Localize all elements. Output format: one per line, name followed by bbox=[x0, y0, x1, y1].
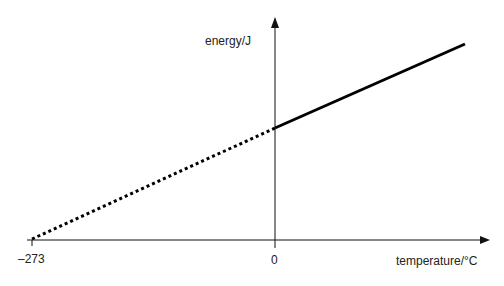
y-axis-label: energy/J bbox=[205, 34, 251, 48]
x-tick-zero: 0 bbox=[271, 253, 278, 267]
x-axis-label: temperature/°C bbox=[396, 254, 478, 268]
dotted-line bbox=[32, 128, 275, 239]
y-axis-arrow-icon bbox=[271, 17, 279, 28]
x-tick-neg273: –273 bbox=[18, 252, 45, 266]
chart-canvas bbox=[0, 0, 504, 286]
solid-line bbox=[275, 44, 465, 128]
x-axis-arrow-icon bbox=[480, 236, 490, 244]
